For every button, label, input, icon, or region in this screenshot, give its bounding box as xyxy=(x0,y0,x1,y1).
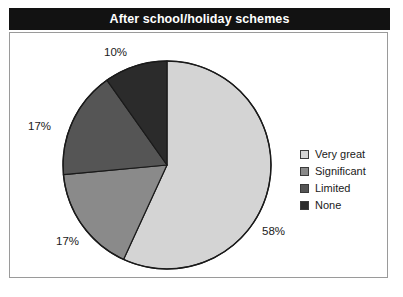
chart-title: After school/holiday schemes xyxy=(110,13,290,26)
pie-label-none: 10% xyxy=(104,47,127,59)
legend-item-very-great: Very great xyxy=(300,146,366,163)
chart-legend: Very great Significant Limited None xyxy=(300,146,366,214)
pie-label-very-great: 58% xyxy=(262,226,285,238)
legend-swatch-limited xyxy=(300,184,309,193)
chart-title-bar: After school/holiday schemes xyxy=(9,8,390,30)
chart-container: After school/holiday schemes 58% 17% 17%… xyxy=(0,0,403,297)
pie-label-significant: 17% xyxy=(56,236,79,248)
legend-item-significant: Significant xyxy=(300,163,366,180)
legend-label-very-great: Very great xyxy=(315,149,365,160)
legend-label-limited: Limited xyxy=(315,183,350,194)
legend-swatch-very-great xyxy=(300,150,309,159)
legend-swatch-significant xyxy=(300,167,309,176)
legend-swatch-none xyxy=(300,201,309,210)
pie-label-limited: 17% xyxy=(28,121,51,133)
legend-item-none: None xyxy=(300,197,366,214)
legend-label-none: None xyxy=(315,200,341,211)
legend-label-significant: Significant xyxy=(315,166,366,177)
legend-item-limited: Limited xyxy=(300,180,366,197)
